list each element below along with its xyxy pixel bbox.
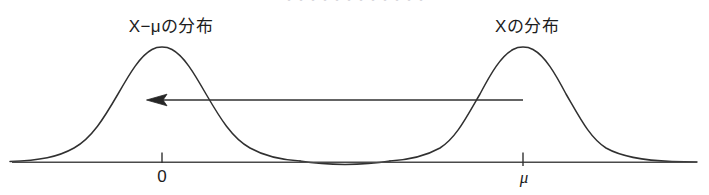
- right-gaussian-curve: [390, 47, 697, 162]
- figure-canvas: [0, 0, 709, 195]
- left-curve-caption: X−μの分布: [129, 18, 213, 35]
- x-tick-label-mu: μ: [520, 169, 529, 186]
- x-tick-label-zero: 0: [157, 168, 166, 185]
- right-curve-caption: Xの分布: [495, 18, 559, 35]
- statistics-figure: ・・・・・・・・・・・・ X−μの分布 Xの分布 0 μ: [0, 0, 709, 195]
- left-gaussian-curve: [10, 47, 300, 161]
